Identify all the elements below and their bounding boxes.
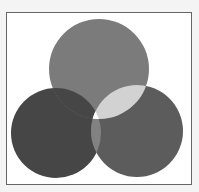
venn-diagram	[0, 0, 199, 192]
